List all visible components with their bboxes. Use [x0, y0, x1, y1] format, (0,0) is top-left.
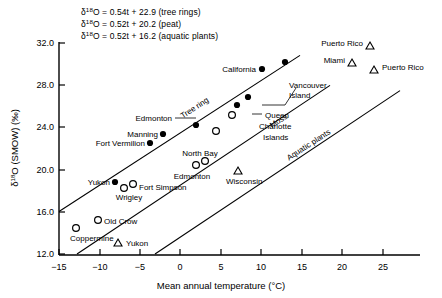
- data-point-edmonton-moss: [193, 162, 200, 169]
- label-north-bay: North Bay: [182, 149, 218, 158]
- label-edmonton-tree: Edmonton: [136, 114, 172, 123]
- label-queen-line3: Islands: [263, 133, 288, 142]
- y-tick-label: 24.0: [36, 122, 54, 132]
- label-california: California: [222, 65, 256, 74]
- label-wisconsin: Wisconsin: [226, 177, 262, 186]
- label-edmonton-moss: Edmonton: [174, 172, 210, 181]
- data-point-puerto-rico-right: [370, 66, 378, 73]
- x-tick-label: 5: [218, 262, 223, 272]
- data-point-queen-charlotte-tree: [245, 94, 251, 100]
- x-tick-labels: −15 −10 −5 0 5 10 15 20 25: [51, 262, 388, 272]
- label-miami: Miami: [324, 56, 346, 65]
- label-puerto-rico-top: Puerto Rico: [321, 39, 363, 48]
- y-tick-label: 16.0: [36, 207, 54, 217]
- x-tick-label: 15: [297, 262, 307, 272]
- data-point-california-2: [282, 59, 288, 65]
- label-coppermine: Coppermine: [70, 234, 114, 243]
- label-yukon-tree: Yukon: [88, 178, 110, 187]
- label-fort-vermilion: Fort Vermilion: [96, 139, 145, 148]
- y-tick-labels: 32.0 28.0 24.0 20.0 16.0 12.0: [36, 38, 54, 259]
- fit-line-moss: [77, 85, 330, 254]
- equation-1: δ18O = 0.54t + 22.9 (tree rings): [81, 6, 201, 17]
- data-point-edmonton-tree: [193, 122, 199, 128]
- data-point-wisconsin: [234, 167, 242, 174]
- data-point-california-1: [259, 66, 265, 72]
- x-tick-label: −10: [92, 262, 107, 272]
- data-point-puerto-rico-top: [366, 42, 374, 49]
- label-vancouver-island-line1: Vancouver: [289, 81, 327, 90]
- data-point-queen-charlotte-moss: [229, 112, 236, 119]
- y-tick-label: 12.0: [36, 249, 54, 259]
- data-point-fort-simpson: [130, 181, 137, 188]
- data-point-miami: [348, 59, 356, 66]
- label-puerto-rico-right: Puerto Rico: [382, 63, 424, 72]
- x-tick-label: 10: [256, 262, 266, 272]
- x-tick-label: −15: [51, 262, 66, 272]
- data-point-old-crow: [95, 217, 102, 224]
- data-point-manning: [160, 131, 166, 137]
- y-axis-ticks: [59, 43, 65, 254]
- label-vancouver-island-line2: Island: [289, 91, 310, 100]
- x-axis-title: Mean annual temperature (°C): [157, 280, 285, 291]
- x-tick-label: 20: [337, 262, 347, 272]
- data-point-coppermine: [73, 225, 80, 232]
- data-point-wrigley: [121, 185, 128, 192]
- x-tick-label: 25: [378, 262, 388, 272]
- data-point-north-bay: [202, 158, 209, 165]
- y-tick-label: 28.0: [36, 80, 54, 90]
- y-axis-title: δ18O (SMOW) (‰): [9, 109, 20, 187]
- label-old-crow: Old Crow: [104, 217, 138, 226]
- chart-svg: δ18O = 0.54t + 22.9 (tree rings) δ18O = …: [0, 0, 442, 298]
- label-wrigley: Wrigley: [116, 193, 143, 202]
- x-axis-ticks: [59, 249, 383, 255]
- label-fort-simpson: Fort Simpson: [139, 183, 187, 192]
- data-point-vancouver-island-tree: [234, 102, 240, 108]
- label-manning: Manning: [127, 130, 158, 139]
- equation-3: δ18O = 0.52t + 16.2 (aquatic plants): [81, 30, 218, 41]
- figure-container: δ18O = 0.54t + 22.9 (tree rings) δ18O = …: [0, 0, 442, 298]
- y-tick-label: 20.0: [36, 165, 54, 175]
- data-point-yukon-aquatic: [114, 239, 122, 246]
- data-point-fort-vermilion: [147, 140, 153, 146]
- x-tick-label: −5: [135, 262, 145, 272]
- fit-label-aquatic-plants: Aquatic plants: [285, 127, 332, 162]
- data-point-vancouver-island-moss: [213, 128, 220, 135]
- y-tick-label: 32.0: [36, 38, 54, 48]
- label-yukon-aquatic: Yukon: [126, 239, 148, 248]
- equation-2: δ18O = 0.52t + 20.2 (peat): [81, 18, 181, 29]
- x-tick-label: 0: [177, 262, 182, 272]
- data-point-yukon-tree: [112, 179, 118, 185]
